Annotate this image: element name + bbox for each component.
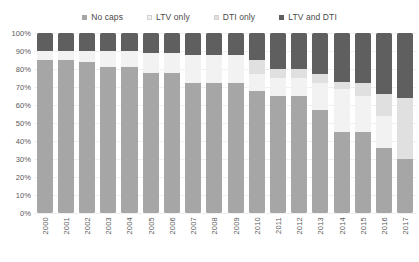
- x-axis-tick: 2013: [310, 215, 331, 259]
- bar-segment: [143, 53, 159, 73]
- bar-segment: [58, 60, 74, 213]
- plot-area: 100%90%80%70%60%50%40%30%20%10%0%: [0, 33, 419, 218]
- x-axis-tick-label: 2017: [401, 217, 410, 235]
- bar-column[interactable]: [119, 33, 140, 213]
- bar-column[interactable]: [225, 33, 246, 213]
- legend-swatch-icon: [147, 15, 152, 20]
- x-axis-tick: 2000: [34, 215, 55, 259]
- bar-column[interactable]: [374, 33, 395, 213]
- bar-stack: [143, 33, 159, 213]
- bar-segment: [312, 110, 328, 213]
- bar-segment: [376, 148, 392, 213]
- x-axis-tick-label: 2012: [295, 217, 304, 235]
- bar-stack: [79, 33, 95, 213]
- x-axis-tick: 2010: [246, 215, 267, 259]
- x-axis-tick-label: 2006: [167, 217, 176, 235]
- bar-segment: [185, 83, 201, 213]
- bar-stack: [228, 33, 244, 213]
- y-axis-tick-label: 60%: [16, 101, 31, 110]
- x-axis-tick-label: 2004: [125, 217, 134, 235]
- bar-segment: [334, 132, 350, 213]
- bar-segment: [121, 67, 137, 213]
- bar-stack: [37, 33, 53, 213]
- x-axis-tick: 2012: [289, 215, 310, 259]
- bar-segment: [228, 55, 244, 84]
- bar-segment: [312, 33, 328, 74]
- x-axis-tick: 2015: [352, 215, 373, 259]
- bar-segment: [164, 33, 180, 53]
- x-axis-tick-label: 2005: [146, 217, 155, 235]
- legend-swatch-icon: [82, 15, 87, 20]
- bar-series-container: [34, 33, 416, 213]
- bar-stack: [291, 33, 307, 213]
- bar-segment: [228, 33, 244, 55]
- bar-segment: [270, 69, 286, 78]
- bar-segment: [58, 51, 74, 60]
- x-axis-tick-label: 2009: [231, 217, 240, 235]
- bar-segment: [37, 51, 53, 60]
- bar-column[interactable]: [140, 33, 161, 213]
- bar-column[interactable]: [183, 33, 204, 213]
- bar-column[interactable]: [204, 33, 225, 213]
- bar-segment: [291, 33, 307, 69]
- bar-stack: [100, 33, 116, 213]
- bar-column[interactable]: [55, 33, 76, 213]
- y-axis-tick-label: 100%: [11, 29, 31, 38]
- y-axis-tick-label: 70%: [16, 83, 31, 92]
- x-axis-tick: 2017: [395, 215, 416, 259]
- legend-swatch-icon: [214, 15, 219, 20]
- bar-stack: [249, 33, 265, 213]
- bar-segment: [100, 67, 116, 213]
- y-axis-tick-label: 50%: [16, 119, 31, 128]
- bar-segment: [185, 33, 201, 55]
- bar-column[interactable]: [161, 33, 182, 213]
- x-axis-tick-label: 2015: [358, 217, 367, 235]
- bar-stack: [397, 33, 413, 213]
- x-axis-tick: 2004: [119, 215, 140, 259]
- bar-column[interactable]: [352, 33, 373, 213]
- bar-segment: [376, 94, 392, 116]
- y-axis-tick-label: 80%: [16, 65, 31, 74]
- bar-stack: [376, 33, 392, 213]
- bar-column[interactable]: [246, 33, 267, 213]
- bar-column[interactable]: [310, 33, 331, 213]
- legend-item[interactable]: No caps: [82, 12, 123, 22]
- x-axis-tick-label: 2001: [61, 217, 70, 235]
- x-axis-tick-label: 2010: [252, 217, 261, 235]
- bar-stack: [121, 33, 137, 213]
- legend-item[interactable]: DTI only: [214, 12, 255, 22]
- bar-segment: [291, 96, 307, 213]
- bar-stack: [355, 33, 371, 213]
- bar-column[interactable]: [34, 33, 55, 213]
- legend-item[interactable]: LTV only: [147, 12, 190, 22]
- bar-segment: [355, 132, 371, 213]
- bar-segment: [397, 98, 413, 159]
- y-axis-tick-label: 40%: [16, 137, 31, 146]
- y-axis: 100%90%80%70%60%50%40%30%20%10%0%: [0, 33, 33, 213]
- x-axis-tick-label: 2008: [210, 217, 219, 235]
- x-axis-tick: 2008: [204, 215, 225, 259]
- bar-segment: [37, 60, 53, 213]
- bar-segment: [312, 74, 328, 83]
- x-axis-tick-label: 2016: [380, 217, 389, 235]
- bar-column[interactable]: [395, 33, 416, 213]
- bar-segment: [312, 83, 328, 110]
- legend-item[interactable]: LTV and DTI: [279, 12, 337, 22]
- bar-column[interactable]: [76, 33, 97, 213]
- x-axis: 2000200120022003200420052006200720082009…: [34, 215, 416, 259]
- bar-column[interactable]: [267, 33, 288, 213]
- x-axis-tick-label: 2002: [83, 217, 92, 235]
- bar-column[interactable]: [98, 33, 119, 213]
- bar-column[interactable]: [289, 33, 310, 213]
- bar-segment: [270, 78, 286, 96]
- bar-stack: [270, 33, 286, 213]
- bar-column[interactable]: [331, 33, 352, 213]
- y-axis-tick-label: 20%: [16, 173, 31, 182]
- bar-segment: [334, 89, 350, 132]
- bar-segment: [164, 53, 180, 73]
- legend-label: No caps: [91, 12, 123, 22]
- bar-segment: [121, 33, 137, 51]
- bar-segment: [100, 33, 116, 51]
- bar-segment: [121, 51, 137, 67]
- legend-label: LTV only: [156, 12, 190, 22]
